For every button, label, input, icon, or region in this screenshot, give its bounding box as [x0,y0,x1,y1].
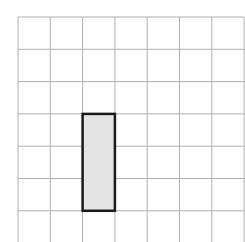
highlighted-rectangle [83,114,115,211]
grid-lines [18,17,244,242]
grid-diagram [0,0,245,242]
